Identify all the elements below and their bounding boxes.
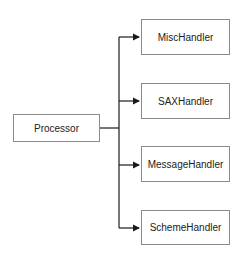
processor-box: Processor bbox=[13, 114, 100, 142]
message-handler-label: MessageHandler bbox=[148, 159, 224, 170]
misc-handler-box: MiscHandler bbox=[141, 19, 230, 55]
scheme-handler-box: SchemeHandler bbox=[141, 210, 230, 245]
misc-handler-label: MiscHandler bbox=[158, 32, 214, 43]
sax-handler-box: SAXHandler bbox=[141, 83, 230, 119]
message-handler-box: MessageHandler bbox=[141, 146, 230, 182]
sax-handler-label: SAXHandler bbox=[158, 96, 213, 107]
scheme-handler-label: SchemeHandler bbox=[150, 222, 222, 233]
processor-label: Processor bbox=[34, 123, 79, 134]
